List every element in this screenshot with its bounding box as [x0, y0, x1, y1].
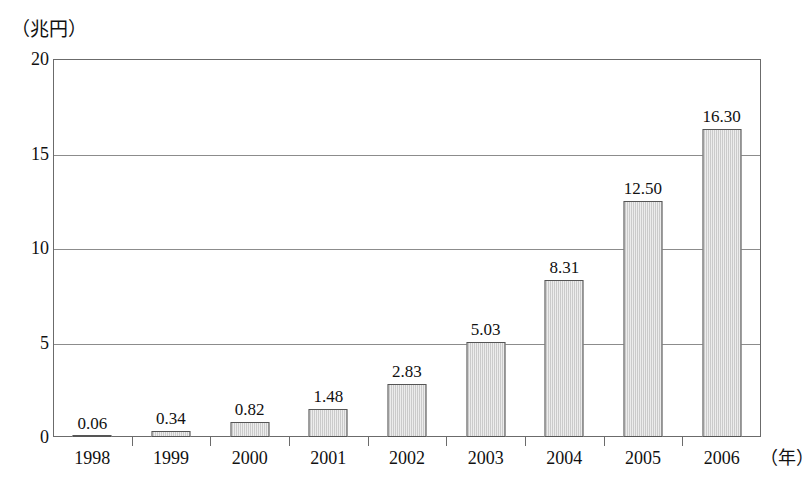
x-tick-label: 2004	[546, 447, 582, 469]
y-tick-label: 0	[3, 428, 49, 446]
bar-value-label: 1.48	[313, 388, 343, 405]
x-tick-mark	[525, 437, 526, 446]
x-tick-label: 2000	[232, 447, 268, 469]
x-tick-label: 2001	[310, 447, 346, 469]
bar-chart: （兆円） 05101520 0.060.340.821.482.835.038.…	[0, 0, 811, 495]
x-tick-mark	[446, 437, 447, 446]
x-axis-unit-label: （年）	[760, 447, 811, 469]
y-tick-label: 20	[3, 50, 49, 68]
x-tick-mark	[682, 437, 683, 446]
x-axis-tick-labels: 199819992000200120022003200420052006	[53, 447, 761, 477]
bar	[545, 280, 584, 437]
bar-group-2002: 2.83	[368, 59, 447, 437]
x-tick-mark	[368, 437, 369, 446]
bar-group-1999: 0.34	[132, 59, 211, 437]
bar-value-label: 5.03	[471, 321, 501, 338]
bar-value-label: 8.31	[549, 259, 579, 276]
y-tick-label: 10	[3, 239, 49, 257]
bar-value-label: 0.34	[156, 410, 186, 427]
bar	[623, 201, 662, 437]
x-axis-ticks	[53, 437, 761, 447]
x-tick-label: 2006	[704, 447, 740, 469]
x-tick-label: 2002	[389, 447, 425, 469]
bars-layer: 0.060.340.821.482.835.038.3112.5016.30	[53, 59, 761, 437]
bar-value-label: 0.82	[235, 401, 265, 418]
y-tick-label: 15	[3, 145, 49, 163]
bar	[466, 342, 505, 437]
bar-value-label: 16.30	[703, 108, 741, 125]
bar	[230, 422, 269, 437]
bar-group-2004: 8.31	[525, 59, 604, 437]
bar-group-1998: 0.06	[53, 59, 132, 437]
x-tick-label: 1998	[74, 447, 110, 469]
x-tick-mark	[132, 437, 133, 446]
x-tick-label: 1999	[153, 447, 189, 469]
x-tick-mark	[210, 437, 211, 446]
bar	[702, 129, 741, 437]
bar-group-2006: 16.30	[682, 59, 761, 437]
x-tick-mark	[289, 437, 290, 446]
bar-value-label: 0.06	[77, 415, 107, 432]
bar-group-2003: 5.03	[446, 59, 525, 437]
bar-value-label: 12.50	[624, 180, 662, 197]
bar-group-2005: 12.50	[604, 59, 683, 437]
bar-group-2001: 1.48	[289, 59, 368, 437]
x-tick-label: 2003	[468, 447, 504, 469]
bar	[387, 384, 426, 437]
x-tick-label: 2005	[625, 447, 661, 469]
bar-group-2000: 0.82	[210, 59, 289, 437]
y-axis-tick-labels: 05101520	[0, 59, 49, 437]
y-axis-unit-label: （兆円）	[11, 19, 87, 41]
bar-value-label: 2.83	[392, 363, 422, 380]
y-tick-label: 5	[3, 334, 49, 352]
bar	[309, 409, 348, 437]
x-tick-mark	[604, 437, 605, 446]
